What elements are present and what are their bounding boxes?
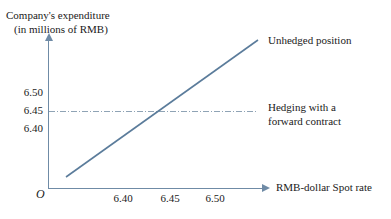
annotation-hedging-line-1: Hedging with a bbox=[268, 100, 341, 114]
annotation-hedging-line-2: forward contract bbox=[268, 114, 341, 128]
expenditure-hedging-chart: Company's expenditure (in millions of RM… bbox=[0, 0, 391, 219]
unhedged-position-line bbox=[66, 40, 258, 177]
annotation-hedging-forward-contract: Hedging with a forward contract bbox=[268, 100, 341, 128]
annotation-unhedged-position: Unhedged position bbox=[268, 33, 351, 47]
x-axis-title: RMB-dollar Spot rate bbox=[276, 181, 372, 193]
